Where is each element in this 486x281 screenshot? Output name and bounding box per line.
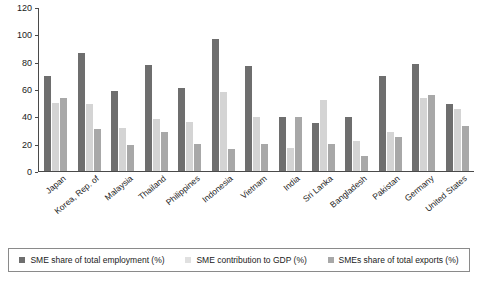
bar [446, 104, 453, 171]
bar [261, 144, 268, 171]
bar [312, 123, 319, 171]
bar [353, 141, 360, 171]
legend-item: SME share of total employment (%) [19, 255, 164, 265]
bar [320, 100, 327, 171]
y-tick-mark [35, 172, 38, 173]
y-tick-label: 100 [17, 31, 32, 40]
bar [345, 117, 352, 171]
bar-group [340, 8, 373, 171]
bar [228, 149, 235, 171]
bar [395, 137, 402, 171]
x-axis-label: Bangladesh [328, 174, 368, 209]
y-tick-label: 0 [27, 168, 32, 177]
bar [328, 144, 335, 171]
legend-label: SME share of total employment (%) [30, 255, 164, 265]
x-axis-label: Thailand [137, 174, 167, 201]
y-tick-mark [35, 145, 38, 146]
legend-item: SMEs share of total exports (%) [328, 255, 459, 265]
bar [428, 95, 435, 171]
bar-group [307, 8, 340, 171]
bar [194, 144, 201, 171]
bar [44, 76, 51, 171]
bar [127, 145, 134, 171]
legend-swatch-icon [19, 257, 25, 263]
x-axis-line [38, 171, 474, 172]
bar [279, 117, 286, 171]
bar [454, 109, 461, 171]
bar-group [106, 8, 139, 171]
bar-group [39, 8, 72, 171]
bar-group [374, 8, 407, 171]
bar [245, 66, 252, 171]
x-axis-category-labels: JapanKorea, Rep. ofMalaysiaThailandPhili… [39, 174, 474, 236]
bar [462, 126, 469, 171]
legend-item: SME contribution to GDP (%) [185, 255, 306, 265]
bar [86, 104, 93, 171]
chart-legend: SME share of total employment (%)SME con… [8, 248, 470, 272]
bar-group [240, 8, 273, 171]
bar [287, 148, 294, 171]
bar [161, 132, 168, 171]
bar-groups [39, 8, 474, 171]
y-tick-label: 60 [22, 86, 32, 95]
y-tick-label: 120 [17, 4, 32, 13]
legend-label: SMEs share of total exports (%) [339, 255, 459, 265]
bar [178, 88, 185, 171]
bar [420, 98, 427, 171]
bar [253, 117, 260, 171]
y-tick-mark [35, 8, 38, 9]
legend-swatch-icon [185, 257, 191, 263]
bar [379, 76, 386, 171]
bar-group [273, 8, 306, 171]
bar [295, 117, 302, 171]
x-axis-label: Philippines [164, 174, 201, 207]
bar-group [72, 8, 105, 171]
x-axis-label: Pakistan [371, 174, 401, 201]
bar [111, 91, 118, 171]
y-tick-label: 20 [22, 140, 32, 149]
y-tick-mark [35, 35, 38, 36]
bar [119, 128, 126, 171]
plot-area: 020406080100120 [38, 8, 474, 172]
bar [78, 53, 85, 171]
legend-swatch-icon [328, 257, 334, 263]
y-tick-label: 80 [22, 58, 32, 67]
bar-group [139, 8, 172, 171]
bar [52, 103, 59, 171]
bar-group [173, 8, 206, 171]
bar-group [407, 8, 440, 171]
x-axis-label: Malaysia [103, 174, 134, 202]
bar [387, 132, 394, 171]
bar [212, 39, 219, 171]
y-tick-mark [35, 117, 38, 118]
x-axis-label: Vietnam [239, 174, 268, 200]
bar [412, 64, 419, 171]
bar [145, 65, 152, 171]
bar [186, 122, 193, 171]
x-axis-label: Japan [44, 174, 67, 195]
x-axis-label: Indonesia [201, 174, 235, 204]
bar-group [206, 8, 239, 171]
bar-chart: 020406080100120 JapanKorea, Rep. ofMalay… [0, 0, 486, 281]
x-axis-label: India [282, 174, 302, 192]
y-tick-mark [35, 90, 38, 91]
bar [60, 98, 67, 171]
legend-label: SME contribution to GDP (%) [196, 255, 306, 265]
bar [361, 156, 368, 171]
bar [94, 129, 101, 171]
y-tick-label: 40 [22, 113, 32, 122]
bar-group [441, 8, 474, 171]
bar [153, 119, 160, 171]
bar [220, 92, 227, 171]
y-tick-mark [35, 63, 38, 64]
